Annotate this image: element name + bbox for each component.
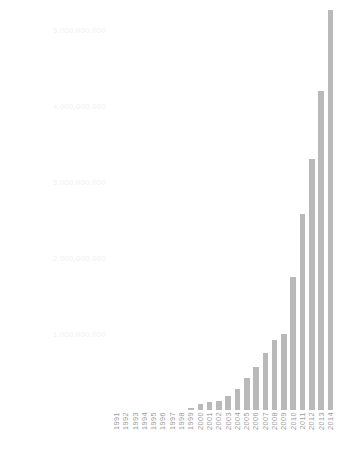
x-tick-slot: 1992 bbox=[121, 412, 130, 458]
x-tick-label: 2014 bbox=[326, 412, 335, 430]
bar[interactable] bbox=[225, 396, 231, 410]
bar-slot bbox=[233, 0, 242, 410]
x-tick-slot: 1994 bbox=[140, 412, 149, 458]
x-tick-label: 2007 bbox=[261, 412, 270, 430]
bar[interactable] bbox=[216, 401, 222, 410]
x-tick-label: 2012 bbox=[307, 412, 316, 430]
x-tick-slot: 2004 bbox=[233, 412, 242, 458]
x-tick-label: 1996 bbox=[158, 412, 167, 430]
x-tick-label: 1993 bbox=[131, 412, 140, 430]
plot-area bbox=[112, 0, 338, 410]
x-tick-label: 2000 bbox=[196, 412, 205, 430]
x-tick-slot: 2003 bbox=[224, 412, 233, 458]
x-tick-label: 2013 bbox=[317, 412, 326, 430]
x-tick-label: 1994 bbox=[140, 412, 149, 430]
x-tick-slot: 2014 bbox=[326, 412, 335, 458]
x-tick-label: 2008 bbox=[270, 412, 279, 430]
bar-slot bbox=[242, 0, 251, 410]
x-tick-slot: 1996 bbox=[158, 412, 167, 458]
x-tick-label: 2003 bbox=[224, 412, 233, 430]
x-tick-label: 2004 bbox=[233, 412, 242, 430]
bar-series bbox=[112, 0, 338, 410]
bar-chart: 1,000,000,0002,000,000,0003,000,000,0004… bbox=[0, 0, 338, 458]
bar-slot bbox=[289, 0, 298, 410]
bar-slot bbox=[149, 0, 158, 410]
bar[interactable] bbox=[272, 340, 278, 410]
bar[interactable] bbox=[253, 367, 259, 410]
bar-slot bbox=[140, 0, 149, 410]
bar-slot bbox=[317, 0, 326, 410]
bar[interactable] bbox=[188, 408, 194, 410]
bar-slot bbox=[214, 0, 223, 410]
x-tick-label: 1991 bbox=[112, 412, 121, 430]
x-tick-slot: 1998 bbox=[177, 412, 186, 458]
x-tick-slot: 1993 bbox=[131, 412, 140, 458]
bar-slot bbox=[298, 0, 307, 410]
bar[interactable] bbox=[244, 378, 250, 410]
x-tick-label: 2002 bbox=[214, 412, 223, 430]
y-tick-label: 5,000,000,000 bbox=[53, 26, 106, 35]
x-tick-label: 1997 bbox=[168, 412, 177, 430]
x-tick-slot: 2002 bbox=[214, 412, 223, 458]
x-tick-label: 2001 bbox=[205, 412, 214, 430]
bar[interactable] bbox=[281, 334, 287, 410]
y-tick-label: 3,000,000,000 bbox=[53, 178, 106, 187]
bar-slot bbox=[177, 0, 186, 410]
bar-slot bbox=[224, 0, 233, 410]
bar[interactable] bbox=[235, 389, 241, 410]
bar[interactable] bbox=[318, 91, 324, 410]
bar-slot bbox=[270, 0, 279, 410]
bar[interactable] bbox=[290, 277, 296, 410]
x-tick-slot: 1997 bbox=[168, 412, 177, 458]
x-tick-label: 2009 bbox=[279, 412, 288, 430]
bar-slot bbox=[307, 0, 316, 410]
bar[interactable] bbox=[328, 10, 334, 410]
x-tick-slot: 2007 bbox=[261, 412, 270, 458]
bar-slot bbox=[186, 0, 195, 410]
bar-slot bbox=[261, 0, 270, 410]
x-axis: 1991199219931994199519961997199819992000… bbox=[112, 412, 338, 458]
bar-slot bbox=[168, 0, 177, 410]
x-tick-slot: 1991 bbox=[112, 412, 121, 458]
bar-slot bbox=[196, 0, 205, 410]
bar[interactable] bbox=[263, 353, 269, 410]
bar[interactable] bbox=[198, 404, 204, 410]
bar-slot bbox=[158, 0, 167, 410]
bar-slot bbox=[279, 0, 288, 410]
bar[interactable] bbox=[300, 214, 306, 410]
y-axis: 1,000,000,0002,000,000,0003,000,000,0004… bbox=[0, 0, 112, 410]
x-tick-label: 2006 bbox=[251, 412, 260, 430]
bar-slot bbox=[121, 0, 130, 410]
x-tick-slot: 2010 bbox=[289, 412, 298, 458]
x-tick-slot: 2012 bbox=[307, 412, 316, 458]
bar[interactable] bbox=[207, 402, 213, 410]
bar-slot bbox=[326, 0, 335, 410]
x-tick-slot: 2009 bbox=[279, 412, 288, 458]
x-tick-slot: 2013 bbox=[317, 412, 326, 458]
bar-slot bbox=[131, 0, 140, 410]
x-tick-slot: 2008 bbox=[270, 412, 279, 458]
bar-slot bbox=[205, 0, 214, 410]
y-tick-label: 1,000,000,000 bbox=[53, 330, 106, 339]
bar-slot bbox=[251, 0, 260, 410]
x-tick-slot: 1999 bbox=[186, 412, 195, 458]
x-tick-label: 2010 bbox=[289, 412, 298, 430]
y-tick-label: 4,000,000,000 bbox=[53, 102, 106, 111]
bar-slot bbox=[112, 0, 121, 410]
x-tick-slot: 2000 bbox=[196, 412, 205, 458]
x-tick-slot: 2006 bbox=[251, 412, 260, 458]
x-tick-slot: 2001 bbox=[205, 412, 214, 458]
x-tick-label: 1992 bbox=[121, 412, 130, 430]
x-tick-label: 1998 bbox=[177, 412, 186, 430]
x-tick-slot: 2011 bbox=[298, 412, 307, 458]
x-tick-label: 2011 bbox=[298, 412, 307, 430]
y-tick-label: 2,000,000,000 bbox=[53, 254, 106, 263]
bar[interactable] bbox=[309, 159, 315, 410]
x-tick-label: 1999 bbox=[186, 412, 195, 430]
